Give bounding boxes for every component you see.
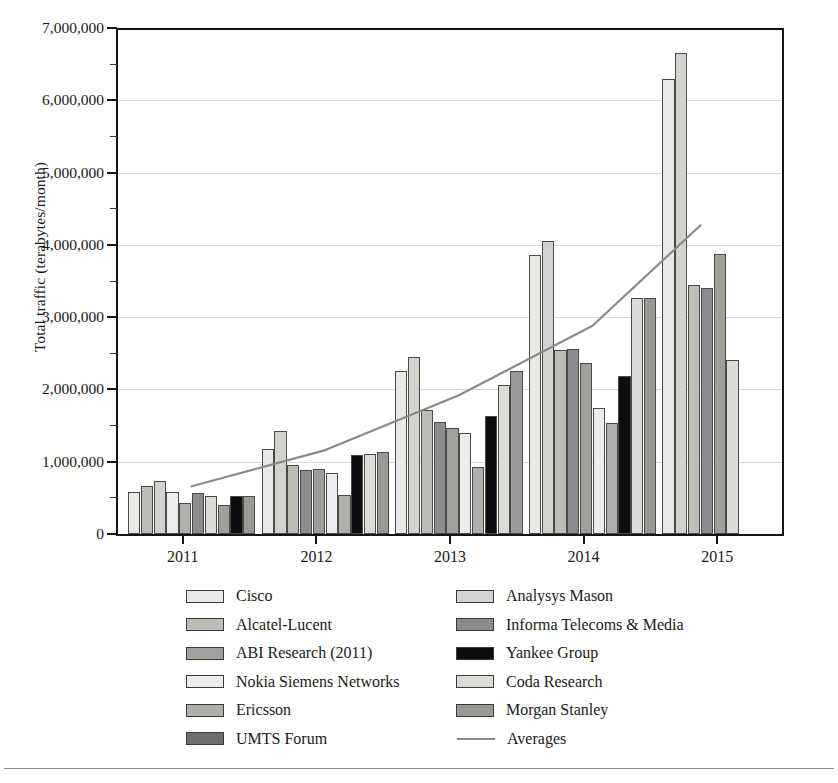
bar <box>364 454 376 534</box>
bar <box>688 285 700 534</box>
y-tick-mark <box>107 461 117 463</box>
y-tick-label: 5,000,000 <box>42 164 104 182</box>
bar <box>726 360 738 534</box>
legend-label: ABI Research (2011) <box>236 645 372 661</box>
bar <box>274 431 286 534</box>
bar <box>377 452 389 534</box>
y-tick-label: 3,000,000 <box>42 308 104 326</box>
legend-item[interactable]: Cisco <box>186 582 486 611</box>
legend-color-swatch <box>186 618 224 631</box>
legend-label: Analysys Mason <box>506 588 613 604</box>
x-tick-label: 2013 <box>434 548 466 566</box>
bar <box>567 349 579 534</box>
y-tick-mark <box>107 172 117 174</box>
x-tick-mark <box>583 534 585 544</box>
bar <box>554 350 566 534</box>
y-tick-mark <box>107 533 117 535</box>
legend-item[interactable]: Informa Telecoms & Media <box>456 611 756 640</box>
y-tick-mark <box>107 27 117 29</box>
y-tick-label: 2,000,000 <box>42 380 104 398</box>
legend-item[interactable]: Ericsson <box>186 696 486 725</box>
legend-item[interactable]: UMTS Forum <box>186 725 486 754</box>
legend-item[interactable]: Yankee Group <box>456 639 756 668</box>
legend-column-left: CiscoAlcatel-LucentABI Research (2011)No… <box>186 582 486 753</box>
legend-column-right: Analysys MasonInforma Telecoms & MediaYa… <box>456 582 756 753</box>
legend-color-swatch <box>186 647 224 660</box>
legend-label: Nokia Siemens Networks <box>236 674 400 690</box>
bar <box>338 495 350 534</box>
y-tick-label: 1,000,000 <box>42 453 104 471</box>
legend-label: UMTS Forum <box>236 731 327 747</box>
x-tick-mark <box>182 534 184 544</box>
legend-color-swatch <box>186 704 224 717</box>
y-tick-minor <box>110 353 117 354</box>
bar <box>580 363 592 534</box>
y-tick-minor <box>110 208 117 209</box>
bar <box>287 465 299 534</box>
bar <box>498 385 510 534</box>
legend-color-swatch <box>186 732 224 745</box>
bar <box>326 473 338 534</box>
bar <box>631 298 643 534</box>
legend-color-swatch <box>186 590 224 603</box>
footer-rule <box>4 768 834 769</box>
legend-item[interactable]: Analysys Mason <box>456 582 756 611</box>
y-tick-label: 4,000,000 <box>42 236 104 254</box>
legend-label: Yankee Group <box>506 645 598 661</box>
x-tick-label: 2011 <box>167 548 198 566</box>
bar <box>593 408 605 534</box>
bar <box>618 376 630 534</box>
legend-color-swatch <box>456 647 494 660</box>
x-tick-label: 2014 <box>568 548 600 566</box>
y-tick-minor <box>110 64 117 65</box>
bar <box>179 503 191 534</box>
y-tick-mark <box>107 316 117 318</box>
bar <box>472 467 484 534</box>
bar <box>313 469 325 534</box>
bar <box>218 505 230 534</box>
bar <box>675 53 687 534</box>
bar <box>408 357 420 534</box>
legend-item[interactable]: Nokia Siemens Networks <box>186 668 486 697</box>
y-tick-label: 0 <box>96 525 104 543</box>
plot-frame-top <box>116 28 784 30</box>
legend-label: Ericsson <box>236 702 291 718</box>
legend-label: Coda Research <box>506 674 602 690</box>
legend-color-swatch <box>456 675 494 688</box>
legend-item[interactable]: Morgan Stanley <box>456 696 756 725</box>
x-tick-label: 2015 <box>701 548 733 566</box>
bar <box>205 496 217 534</box>
bar <box>714 254 726 534</box>
y-tick-mark <box>107 388 117 390</box>
bar <box>395 371 407 534</box>
legend-label: Cisco <box>236 588 272 604</box>
bar <box>166 492 178 534</box>
legend-item[interactable]: Alcatel-Lucent <box>186 611 486 640</box>
x-tick-mark <box>449 534 451 544</box>
bar <box>446 428 458 534</box>
bar <box>701 288 713 534</box>
bar <box>128 492 140 534</box>
legend-color-swatch <box>456 618 494 631</box>
x-tick-label: 2012 <box>300 548 332 566</box>
chart-figure: Total traffic (terabytes/month) 7,000,00… <box>0 0 838 783</box>
legend-label: Morgan Stanley <box>506 702 608 718</box>
bar <box>262 449 274 534</box>
bar <box>485 416 497 534</box>
legend-item[interactable]: ABI Research (2011) <box>186 639 486 668</box>
y-tick-minor <box>110 425 117 426</box>
bar <box>606 423 618 534</box>
y-tick-minor <box>110 136 117 137</box>
legend-label: Alcatel-Lucent <box>236 617 332 633</box>
bar <box>141 486 153 534</box>
bar <box>154 481 166 534</box>
legend-item[interactable]: Coda Research <box>456 668 756 697</box>
legend-label: Averages <box>507 731 566 747</box>
bar <box>529 255 541 534</box>
x-tick-mark <box>315 534 317 544</box>
y-tick-label: 7,000,000 <box>42 19 104 37</box>
plot-area: 7,000,0006,000,0005,000,0004,000,0003,00… <box>116 28 784 536</box>
legend-item[interactable]: Averages <box>456 725 756 754</box>
bar <box>662 79 674 534</box>
y-tick-mark <box>107 244 117 246</box>
